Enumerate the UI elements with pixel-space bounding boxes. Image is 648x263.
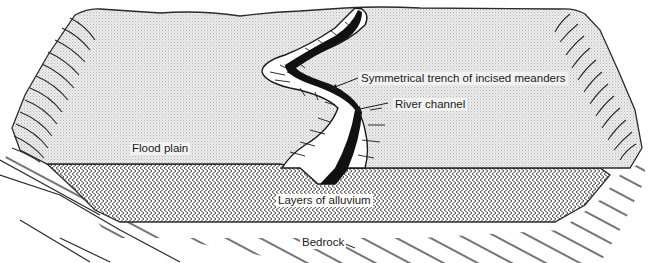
incised-meander-diagram	[0, 0, 648, 263]
flood-plain-label: Flood plain	[130, 142, 190, 155]
alluvium-label: Layers of alluvium	[276, 194, 373, 207]
trench-label: Symmetrical trench of incised meanders	[359, 72, 568, 85]
river-channel-label: River channel	[393, 98, 467, 111]
bedrock-label: Bedrock	[300, 236, 346, 249]
